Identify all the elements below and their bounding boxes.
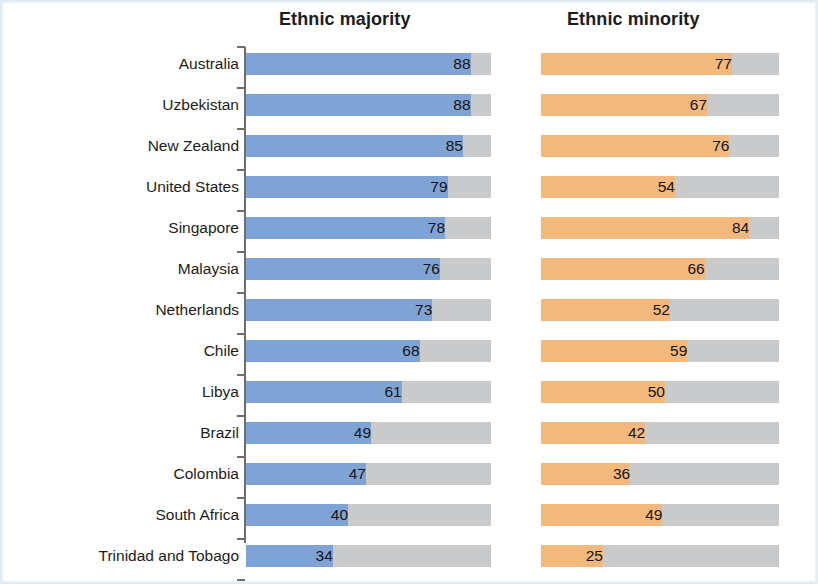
category-label: Australia (179, 55, 239, 73)
minority-bar-track: 25 (541, 545, 779, 567)
axis-tick (237, 87, 245, 89)
minority-bar-track: 42 (541, 422, 779, 444)
chart-row: Chile6859 (1, 330, 818, 371)
minority-value-label: 42 (541, 424, 652, 442)
chart-row: Colombia4736 (1, 453, 818, 494)
majority-value-label: 47 (246, 465, 373, 483)
majority-bar-track: 76 (246, 258, 491, 280)
panel-title-ethnic-minority: Ethnic minority (567, 9, 700, 30)
minority-value-label: 77 (541, 55, 739, 73)
majority-bar-track: 79 (246, 176, 491, 198)
axis-tick (237, 374, 245, 376)
majority-bar-track: 88 (246, 94, 491, 116)
chart-row: United States7954 (1, 166, 818, 207)
axis-tick (237, 251, 245, 253)
majority-value-label: 34 (246, 547, 340, 565)
category-label: Chile (204, 342, 239, 360)
majority-bar-track: 61 (246, 381, 491, 403)
minority-value-label: 67 (541, 96, 714, 114)
minority-bar-track: 54 (541, 176, 779, 198)
chart-row: Australia8877 (1, 43, 818, 84)
chart-row: Trinidad and Tobago3425 (1, 535, 818, 576)
category-label: United States (146, 178, 239, 196)
minority-value-label: 50 (541, 383, 672, 401)
minority-bar-track: 50 (541, 381, 779, 403)
panel-title-row: Ethnic majority Ethnic minority (1, 9, 818, 39)
minority-bar-track: 52 (541, 299, 779, 321)
majority-bar-track: 47 (246, 463, 491, 485)
category-label: Netherlands (155, 301, 239, 319)
chart-row: Brazil4942 (1, 412, 818, 453)
majority-bar-track: 88 (246, 53, 491, 75)
chart-row: Singapore7884 (1, 207, 818, 248)
majority-bar-track: 73 (246, 299, 491, 321)
axis-tick (237, 333, 245, 335)
majority-value-label: 49 (246, 424, 378, 442)
majority-value-label: 73 (246, 301, 439, 319)
majority-value-label: 79 (246, 178, 455, 196)
majority-value-label: 85 (246, 137, 470, 155)
majority-bar-track: 40 (246, 504, 491, 526)
minority-bar-track: 49 (541, 504, 779, 526)
axis-tick (237, 497, 245, 499)
axis-tick (237, 46, 245, 48)
axis-tick (237, 456, 245, 458)
minority-value-label: 25 (541, 547, 610, 565)
category-label: Malaysia (178, 260, 239, 278)
category-label: Trinidad and Tobago (99, 547, 239, 565)
chart-row: Uzbekistan8867 (1, 84, 818, 125)
chart-row: New Zealand8576 (1, 125, 818, 166)
plot-area: Australia8877Uzbekistan8867New Zealand85… (1, 41, 818, 573)
chart-row: South Africa4049 (1, 494, 818, 535)
majority-value-label: 76 (246, 260, 447, 278)
majority-value-label: 40 (246, 506, 355, 524)
minority-bar-track: 36 (541, 463, 779, 485)
chart-figure: Ethnic majority Ethnic minority Australi… (0, 0, 818, 584)
majority-value-label: 88 (246, 96, 478, 114)
axis-tick (237, 538, 245, 540)
minority-bar-track: 76 (541, 135, 779, 157)
category-label: Colombia (174, 465, 239, 483)
axis-tick (237, 128, 245, 130)
minority-bar-track: 66 (541, 258, 779, 280)
majority-bar-track: 68 (246, 340, 491, 362)
category-label: South Africa (155, 506, 239, 524)
majority-bar-track: 49 (246, 422, 491, 444)
axis-tick (237, 210, 245, 212)
minority-value-label: 52 (541, 301, 677, 319)
majority-value-label: 88 (246, 55, 478, 73)
axis-tick (237, 292, 245, 294)
majority-bar-track: 34 (246, 545, 491, 567)
category-label: Uzbekistan (162, 96, 239, 114)
category-label: Libya (202, 383, 239, 401)
category-label: Brazil (200, 424, 239, 442)
majority-bar-track: 85 (246, 135, 491, 157)
minority-bar-track: 67 (541, 94, 779, 116)
minority-value-label: 66 (541, 260, 712, 278)
axis-tick (237, 579, 245, 581)
majority-value-label: 78 (246, 219, 452, 237)
minority-bar-track: 84 (541, 217, 779, 239)
chart-row: Netherlands7352 (1, 289, 818, 330)
axis-tick (237, 415, 245, 417)
minority-value-label: 84 (541, 219, 756, 237)
category-label: Singapore (168, 219, 239, 237)
chart-row: Libya6150 (1, 371, 818, 412)
minority-value-label: 36 (541, 465, 637, 483)
minority-value-label: 54 (541, 178, 682, 196)
axis-tick (237, 169, 245, 171)
panel-title-ethnic-majority: Ethnic majority (279, 9, 411, 30)
minority-bar-track: 77 (541, 53, 779, 75)
minority-value-label: 59 (541, 342, 694, 360)
category-label: New Zealand (148, 137, 239, 155)
majority-value-label: 61 (246, 383, 409, 401)
minority-value-label: 49 (541, 506, 669, 524)
chart-row: Malaysia7666 (1, 248, 818, 289)
minority-bar-track: 59 (541, 340, 779, 362)
majority-value-label: 68 (246, 342, 427, 360)
minority-value-label: 76 (541, 137, 736, 155)
majority-bar-track: 78 (246, 217, 491, 239)
